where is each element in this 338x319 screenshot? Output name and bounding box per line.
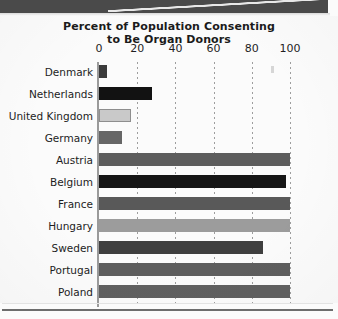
- category-label-united-kingdom: United Kingdom: [3, 110, 93, 122]
- bar-poland: [99, 285, 290, 298]
- bar-germany: [99, 131, 122, 144]
- x-tick-label-80: 80: [245, 42, 259, 55]
- bar-belgium: [99, 175, 286, 188]
- category-label-poland: Poland: [3, 286, 93, 298]
- bottom-rule: [2, 309, 333, 311]
- x-tick-label-60: 60: [207, 42, 221, 55]
- category-label-austria: Austria: [3, 154, 93, 166]
- gridline-100: [290, 62, 291, 307]
- bar-france: [99, 197, 290, 210]
- bar-netherlands: [99, 87, 152, 100]
- x-tick-label-20: 20: [130, 42, 144, 55]
- plot-area: 020406080100 DenmarkNetherlandsUnited Ki…: [99, 62, 290, 307]
- category-label-sweden: Sweden: [3, 242, 93, 254]
- scan-banner: [0, 0, 328, 13]
- chart-page: Percent of Population Consenting to Be O…: [0, 0, 338, 319]
- category-label-belgium: Belgium: [3, 176, 93, 188]
- category-label-netherlands: Netherlands: [3, 88, 93, 100]
- x-tick-label-40: 40: [168, 42, 182, 55]
- scan-artifact-speck: [271, 66, 274, 73]
- category-label-denmark: Denmark: [3, 66, 93, 78]
- x-tick-label-0: 0: [96, 42, 103, 55]
- bar-hungary: [99, 219, 290, 232]
- x-tick-label-100: 100: [280, 42, 301, 55]
- banner-shadow: [0, 13, 330, 16]
- category-label-france: France: [3, 198, 93, 210]
- bar-denmark: [99, 65, 107, 78]
- category-label-portugal: Portugal: [3, 264, 93, 276]
- bar-portugal: [99, 263, 290, 276]
- bar-austria: [99, 153, 290, 166]
- bar-united-kingdom: [99, 109, 131, 122]
- bottom-rule-soft: [2, 303, 333, 304]
- chart-title-line-1: Percent of Population Consenting: [0, 20, 338, 33]
- category-label-hungary: Hungary: [3, 220, 93, 232]
- bar-sweden: [99, 241, 263, 254]
- banner-diagonal-sliver: [108, 0, 328, 13]
- category-label-germany: Germany: [3, 132, 93, 144]
